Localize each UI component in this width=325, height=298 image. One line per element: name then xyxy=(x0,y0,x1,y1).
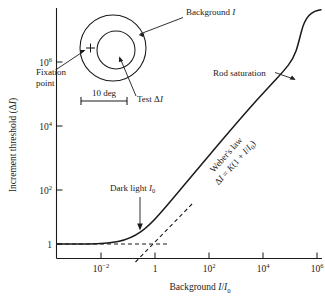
inset-fixation-leader xyxy=(57,51,84,69)
stimulus-inset-diagram: Background I Test ΔI Fixation point 10 d… xyxy=(36,7,236,105)
weber-asymptote xyxy=(136,203,194,262)
x-axis-ticks xyxy=(101,253,317,259)
inset-fixation-label-line1: Fixation xyxy=(36,67,67,77)
scalebar-label: 10 deg xyxy=(92,88,117,98)
dark-light-annotation: Dark light I0 xyxy=(110,183,155,231)
x-axis-tick-labels: 10−2 1 102 104 106 xyxy=(93,262,324,274)
inset-scalebar: 10 deg xyxy=(81,88,127,105)
x-tick-label-1: 1 xyxy=(153,264,158,274)
y-tick-label-1e2: 102 xyxy=(39,184,52,196)
test-spot-circle xyxy=(97,31,135,69)
inset-background-label: Background I xyxy=(186,7,236,17)
figure-root: 106 104 102 1 10−2 1 102 104 106 Backgro… xyxy=(0,0,325,298)
fixation-point-marker xyxy=(86,44,95,53)
inset-fixation-label-line2: point xyxy=(36,78,55,88)
y-tick-label-1e4: 104 xyxy=(39,120,53,132)
dark-light-arrowhead xyxy=(137,224,143,231)
x-tick-label-1e2: 102 xyxy=(203,262,216,274)
y-tick-label-1: 1 xyxy=(47,240,52,250)
dark-light-label: Dark light I0 xyxy=(110,183,155,194)
y-tick-label-1e6: 106 xyxy=(39,56,53,68)
inset-background-leader xyxy=(140,18,183,35)
axes-frame xyxy=(57,8,323,259)
x-tick-label-1e4: 104 xyxy=(257,262,271,274)
reference-lines xyxy=(58,203,193,262)
inset-test-leader xyxy=(120,58,136,96)
y-axis-ticks xyxy=(57,62,63,244)
increment-threshold-curve xyxy=(57,10,321,244)
y-axis-title: Increment threshold (ΔI) xyxy=(8,98,19,192)
x-tick-label-1e6: 106 xyxy=(311,262,325,274)
increment-threshold-chart: 106 104 102 1 10−2 1 102 104 106 Backgro… xyxy=(0,0,325,298)
rod-saturation-annotation: Rod saturation xyxy=(213,68,296,80)
rod-saturation-label: Rod saturation xyxy=(213,68,266,78)
inset-test-label: Test ΔI xyxy=(137,94,164,104)
weber-law-annotation: Weber's law ΔI = K(1 + I/I0) xyxy=(204,130,259,187)
inset-test-arrowhead xyxy=(119,56,123,62)
x-axis-title: Background I/I0 xyxy=(169,282,231,294)
x-tick-label-1e-2: 10−2 xyxy=(93,262,109,274)
